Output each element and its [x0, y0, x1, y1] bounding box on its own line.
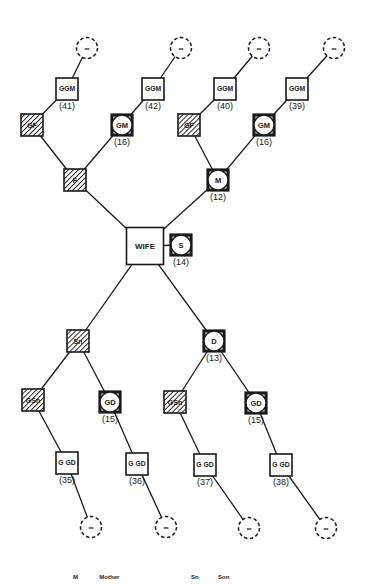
- node-label: GGM: [59, 85, 76, 92]
- legend-text: Mother: [99, 574, 119, 580]
- node-layer: ∞∞∞∞GGM(41)GGM(42)GGM(40)GGM(39)GFGM(16)…: [21, 38, 345, 539]
- legend-text: Son: [218, 574, 229, 580]
- node-ggd37: G GD(37): [194, 454, 216, 487]
- node-gd2: GD(15): [245, 392, 267, 425]
- node-label: G GD: [272, 461, 289, 468]
- node-label: ∞: [332, 45, 337, 52]
- node-gf1: GF: [21, 114, 43, 136]
- node-age: (15): [248, 415, 264, 425]
- node-age: (35): [59, 475, 75, 485]
- node-inf8: ∞: [316, 518, 337, 539]
- node-age: (13): [206, 353, 222, 363]
- node-age: (14): [173, 257, 189, 267]
- node-label: ∞: [164, 524, 169, 531]
- node-label: G GD: [128, 460, 145, 467]
- node-age: (39): [289, 101, 305, 111]
- legend-abbr: M: [73, 574, 78, 580]
- node-label: Sn: [74, 338, 83, 345]
- node-label: S: [178, 241, 183, 250]
- node-inf3: ∞: [249, 38, 270, 59]
- node-label: GD: [250, 399, 262, 408]
- node-d: D(13): [203, 330, 225, 363]
- node-label: F: [73, 177, 78, 184]
- node-s: S(14): [170, 234, 192, 267]
- legend-abbr: Sn: [191, 574, 199, 580]
- node-label: WIFE: [135, 242, 156, 251]
- node-label: GD: [104, 398, 116, 407]
- node-label: GM: [258, 121, 270, 130]
- kinship-diagram: ∞∞∞∞GGM(41)GGM(42)GGM(40)GGM(39)GFGM(16)…: [0, 0, 372, 586]
- node-label: ∞: [89, 524, 94, 531]
- node-age: (15): [102, 414, 118, 424]
- node-age: (37): [197, 477, 213, 487]
- node-gsn1: GSn: [22, 389, 44, 411]
- node-age: (38): [273, 477, 289, 487]
- node-label: GSn: [26, 397, 40, 404]
- node-label: GSn: [168, 399, 182, 406]
- node-ggm40: GGM(40): [214, 78, 236, 111]
- node-label: G GD: [58, 459, 75, 466]
- node-gf2: GF: [178, 114, 200, 136]
- node-label: G GD: [196, 461, 213, 468]
- node-label: ∞: [257, 45, 262, 52]
- node-label: GGM: [217, 85, 234, 92]
- node-age: (16): [114, 137, 130, 147]
- node-ggm42: GGM(42): [142, 78, 164, 111]
- node-f: F: [64, 169, 86, 191]
- node-age: (16): [256, 137, 272, 147]
- node-inf5: ∞: [81, 517, 102, 538]
- node-label: GM: [116, 121, 128, 130]
- node-gd1: GD(15): [99, 391, 121, 424]
- legend-item-mother: M Mother: [73, 574, 119, 580]
- node-label: GGM: [145, 85, 162, 92]
- node-age: (40): [217, 101, 233, 111]
- node-inf7: ∞: [239, 518, 260, 539]
- node-inf1: ∞: [77, 38, 98, 59]
- node-ggm39: GGM(39): [286, 78, 308, 111]
- node-label: ∞: [324, 525, 329, 532]
- node-label: D: [211, 337, 217, 346]
- node-ggd36: G GD(36): [126, 453, 148, 486]
- node-ggm41: GGM(41): [56, 78, 78, 111]
- node-age: (42): [145, 101, 161, 111]
- node-label: M: [215, 176, 221, 185]
- node-inf2: ∞: [171, 38, 192, 59]
- node-age: (36): [129, 476, 145, 486]
- node-gm2: GM(16): [253, 114, 275, 147]
- node-gsn2: GSn: [164, 391, 186, 413]
- node-inf4: ∞: [324, 38, 345, 59]
- node-label: GF: [184, 122, 194, 129]
- node-label: GGM: [289, 85, 306, 92]
- node-label: GF: [27, 122, 37, 129]
- node-wife: WIFE: [127, 228, 164, 265]
- node-ggd38: G GD(38): [270, 454, 292, 487]
- node-sn: Sn: [67, 330, 89, 352]
- node-gm1: GM(16): [111, 114, 133, 147]
- node-age: (12): [210, 192, 226, 202]
- node-m: M(12): [207, 169, 229, 202]
- node-inf6: ∞: [156, 517, 177, 538]
- node-label: ∞: [247, 525, 252, 532]
- node-age: (41): [59, 101, 75, 111]
- node-ggd35: G GD(35): [56, 452, 78, 485]
- node-label: ∞: [179, 45, 184, 52]
- legend-item-son: Sn Son: [191, 574, 229, 580]
- node-label: ∞: [85, 45, 90, 52]
